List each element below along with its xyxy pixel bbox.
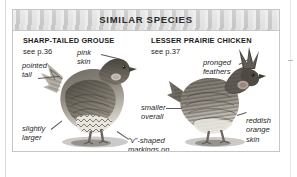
annotation-reddish-orange-skin: reddish orange skin bbox=[246, 116, 271, 144]
similar-species-panel: SIMILAR SPECIES bbox=[12, 9, 280, 152]
page-tick-mark-right bbox=[288, 60, 293, 61]
annotation-smaller-overall: smaller overall bbox=[141, 103, 165, 122]
species-page-ref-lesser-prairie-chicken: see p.37 bbox=[151, 47, 180, 56]
panel-body: SHARP-TAILED GROUSE see p.36 pink skin p… bbox=[13, 31, 279, 152]
annotation-pink-skin: pink skin bbox=[77, 48, 91, 67]
panel-title: SIMILAR SPECIES bbox=[99, 15, 192, 25]
annotation-pronged-feathers: pronged feathers bbox=[203, 58, 231, 77]
leader-line-smaller-overall bbox=[166, 108, 182, 109]
species-title-sharp-tailed-grouse: SHARP-TAILED GROUSE bbox=[23, 36, 114, 45]
page-gutter-rule-left bbox=[5, 0, 6, 177]
panel-header-band: SIMILAR SPECIES bbox=[13, 10, 279, 31]
species-page-ref-sharp-tailed-grouse: see p.36 bbox=[23, 47, 52, 56]
annotation-slightly-larger: slightly larger bbox=[22, 124, 45, 143]
page-canvas: SIMILAR SPECIES bbox=[0, 0, 297, 177]
annotation-v-shaped-markings: "v"-shaped markings on underparts bbox=[128, 136, 169, 152]
page-gutter-rule-right bbox=[290, 0, 291, 177]
species-title-lesser-prairie-chicken: LESSER PRAIRIE CHICKEN bbox=[151, 36, 252, 45]
